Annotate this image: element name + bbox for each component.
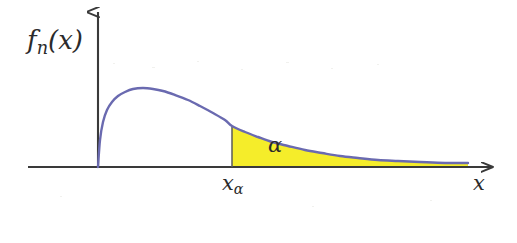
critical-value-subscript: α — [234, 181, 244, 197]
critical-value-label: xα — [222, 173, 243, 196]
x-axis-label: x — [473, 173, 485, 194]
critical-value-base: x — [222, 171, 234, 195]
y-axis-label-function: f — [27, 25, 37, 55]
y-axis-label-argument: (x) — [48, 25, 83, 55]
y-axis-function-label: fn(x) — [27, 27, 83, 58]
y-axis-label-subscript: n — [37, 38, 48, 58]
figure-container: fn(x) α xα x — [0, 0, 517, 243]
shaded-area-label: α — [268, 135, 282, 156]
